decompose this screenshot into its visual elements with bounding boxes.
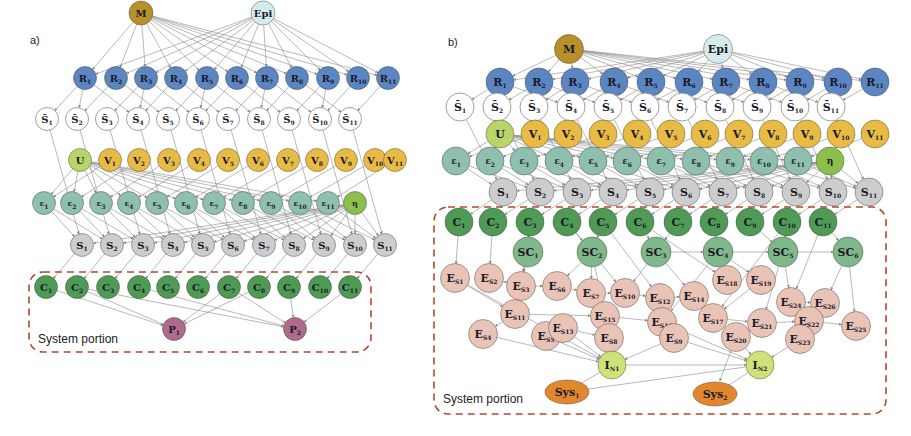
edge bbox=[176, 86, 199, 110]
node-u: U bbox=[486, 120, 514, 148]
edge bbox=[52, 212, 75, 237]
node-r1: R1 bbox=[74, 67, 97, 90]
node-v11: V11 bbox=[861, 120, 889, 148]
node-e7: ε7 bbox=[647, 147, 675, 175]
edge bbox=[772, 347, 788, 357]
edge bbox=[205, 254, 225, 278]
edge bbox=[331, 212, 348, 235]
node-r5: R5 bbox=[637, 68, 665, 96]
node-e17: ES17 bbox=[699, 304, 728, 333]
edge bbox=[353, 130, 382, 234]
node-s5: S5 bbox=[192, 234, 215, 257]
node-e18: ES18 bbox=[713, 266, 742, 295]
edge bbox=[206, 86, 229, 110]
node-sb3: S̄3 bbox=[96, 108, 119, 131]
edge bbox=[267, 86, 289, 110]
node-r10: R10 bbox=[824, 68, 852, 96]
edge bbox=[841, 170, 858, 184]
node-sys1: Sys1 bbox=[545, 380, 589, 404]
panel-b-system-portion-label: System portion bbox=[443, 392, 523, 406]
node-c8: C8 bbox=[700, 208, 728, 236]
node-c4: C4 bbox=[128, 276, 151, 299]
node-e5: ε5 bbox=[146, 192, 169, 215]
edge bbox=[171, 130, 200, 234]
node-e2: ε2 bbox=[476, 147, 504, 175]
node-sb5: S̄5 bbox=[157, 108, 180, 131]
node-sb2: S̄2 bbox=[483, 93, 511, 121]
node-v9: V9 bbox=[793, 120, 821, 148]
edge bbox=[850, 267, 855, 312]
edge bbox=[358, 86, 380, 110]
edge bbox=[152, 18, 286, 74]
node-e1: ε1 bbox=[442, 147, 470, 175]
node-s4: S4 bbox=[162, 234, 185, 257]
node-r11: R11 bbox=[861, 68, 889, 96]
node-c5: C5 bbox=[589, 208, 617, 236]
panel-b-label: b) bbox=[448, 36, 458, 48]
node-v4: V4 bbox=[188, 149, 211, 172]
node-c1: C1 bbox=[35, 276, 58, 299]
node-r6: R6 bbox=[675, 68, 703, 96]
node-c2: C2 bbox=[479, 208, 507, 236]
edge bbox=[567, 262, 581, 275]
node-e10: ε10 bbox=[750, 147, 778, 175]
edge bbox=[490, 236, 492, 264]
edge bbox=[53, 254, 74, 279]
node-sc3: SC3 bbox=[641, 237, 671, 267]
node-sb1: S̄1 bbox=[446, 93, 474, 121]
node-s8: S8 bbox=[745, 178, 773, 206]
node-s6: S6 bbox=[222, 234, 245, 257]
node-c7: C7 bbox=[218, 276, 241, 299]
node-c11: C11 bbox=[339, 276, 362, 299]
node-s7: S7 bbox=[709, 178, 737, 206]
node-sb1: S̄1 bbox=[36, 108, 59, 131]
edge bbox=[357, 254, 377, 278]
node-sc1: SC1 bbox=[513, 237, 543, 267]
edge bbox=[140, 89, 144, 107]
edge bbox=[647, 234, 649, 238]
node-s6: S6 bbox=[672, 178, 700, 206]
node-r7: R7 bbox=[256, 67, 279, 90]
edge bbox=[322, 89, 326, 107]
edge bbox=[110, 130, 140, 234]
node-s1: S1 bbox=[489, 178, 517, 206]
node-e4: ε4 bbox=[118, 192, 141, 215]
edge bbox=[727, 373, 748, 387]
edge bbox=[823, 323, 841, 325]
node-label: U bbox=[76, 155, 85, 166]
node-sc6: SC6 bbox=[833, 237, 863, 267]
edge bbox=[503, 282, 507, 283]
node-v2: V2 bbox=[128, 149, 151, 172]
node-sys2: Sys2 bbox=[693, 382, 737, 406]
node-s2: S2 bbox=[526, 178, 554, 206]
edge bbox=[509, 144, 514, 150]
node-label: η bbox=[827, 156, 834, 166]
node-e6: ε6 bbox=[175, 192, 198, 215]
node-e1: ES1 bbox=[441, 264, 470, 293]
node-sb10: S̄10 bbox=[781, 93, 809, 121]
node-s3: S3 bbox=[132, 234, 155, 257]
edge bbox=[152, 16, 346, 74]
edge bbox=[720, 351, 731, 381]
node-s9: S9 bbox=[313, 234, 336, 257]
node-s9: S9 bbox=[782, 178, 810, 206]
node-sb11: S̄11 bbox=[339, 108, 362, 131]
node-r7: R7 bbox=[712, 68, 740, 96]
panel-a-nodes: MEpiR1R2R3R4R5R6R7R8R9R10R11S̄1S̄2S̄3S̄4… bbox=[33, 1, 407, 341]
node-e21: ES21 bbox=[748, 309, 777, 338]
node-e8: ε8 bbox=[232, 192, 255, 215]
node-sb7: S̄7 bbox=[668, 93, 696, 121]
edge bbox=[261, 89, 265, 107]
node-sb11: S̄11 bbox=[817, 93, 845, 121]
node-e6: ε6 bbox=[613, 147, 641, 175]
node-sb4: S̄4 bbox=[557, 93, 585, 121]
node-sb6: S̄6 bbox=[631, 93, 659, 121]
node-c6: C6 bbox=[626, 208, 654, 236]
edge bbox=[271, 21, 319, 69]
node-e19: ES19 bbox=[747, 266, 776, 295]
node-r10: R10 bbox=[347, 67, 370, 90]
node-r9: R9 bbox=[317, 67, 340, 90]
node-c11: C11 bbox=[809, 208, 837, 236]
edge bbox=[666, 263, 685, 285]
edge bbox=[639, 295, 645, 296]
